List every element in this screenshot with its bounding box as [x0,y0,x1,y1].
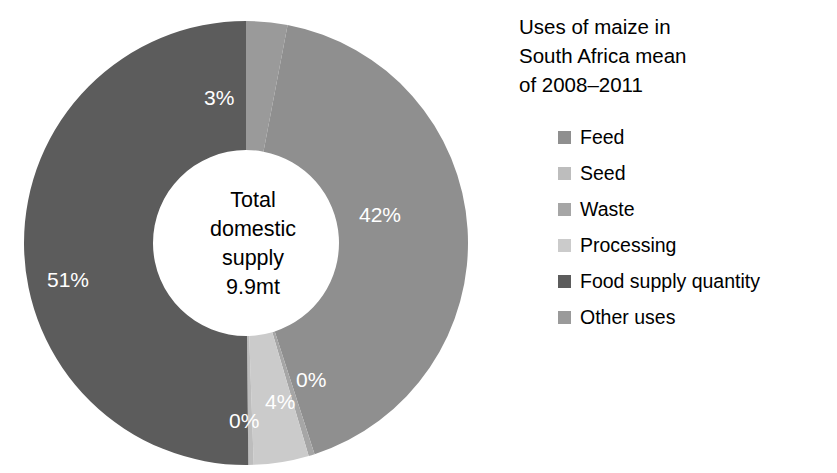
donut-slice-feed[interactable] [263,25,468,454]
chart-title-line-1: Uses of maize in [519,12,837,41]
chart-title-line-2: South Africa mean [519,41,837,70]
legend-swatch-icon [558,167,571,180]
legend-item-label: Other uses [580,306,675,328]
chart-title-line-3: of 2008–2011 [519,70,837,99]
donut-svg [8,8,488,473]
legend-item-label: Waste [580,198,635,220]
donut-chart-plot: Total domestic supply 9.9mt 3% 42% 0% 4%… [8,8,488,473]
legend-item-seed[interactable]: Seed [558,155,837,191]
title-and-legend-block: Uses of maize in South Africa mean of 20… [519,12,837,372]
legend-swatch-icon [558,239,571,252]
donut-chart-figure: Total domestic supply 9.9mt 3% 42% 0% 4%… [0,0,837,473]
chart-legend: FeedSeedWasteProcessingFood supply quant… [558,119,837,335]
legend-item-waste[interactable]: Waste [558,191,837,227]
legend-item-label: Feed [580,126,624,148]
donut-slice-food-supply-quantity[interactable] [24,21,248,465]
legend-item-food-supply-quantity[interactable]: Food supply quantity [558,263,837,299]
legend-swatch-icon [558,311,571,324]
legend-item-label: Food supply quantity [580,270,760,292]
legend-swatch-icon [558,203,571,216]
legend-item-other-uses[interactable]: Other uses [558,299,837,335]
legend-item-label: Processing [580,234,676,256]
legend-item-processing[interactable]: Processing [558,227,837,263]
legend-item-label: Seed [580,162,626,184]
legend-swatch-icon [558,275,571,288]
chart-title: Uses of maize in South Africa mean of 20… [519,12,837,99]
donut-slice-group [24,21,468,465]
legend-swatch-icon [558,131,571,144]
legend-item-feed[interactable]: Feed [558,119,837,155]
